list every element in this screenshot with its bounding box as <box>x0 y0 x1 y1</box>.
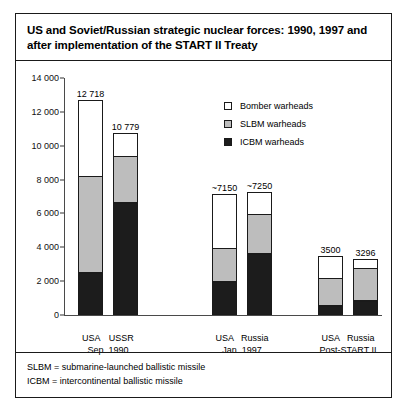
legend-item: SLBM warheads <box>224 119 313 129</box>
footnote-slbm: SLBM = submarine-launched ballistic miss… <box>27 361 380 375</box>
legend-label: SLBM warheads <box>240 119 306 129</box>
bar-segment-icbm <box>78 273 103 314</box>
x-axis-country-label: USSR <box>109 333 134 343</box>
y-axis-tick-mark <box>60 179 64 180</box>
legend-label: Bomber warheads <box>240 101 313 111</box>
bar-segment-slbm <box>247 214 272 255</box>
bar-stack: 12 718 <box>78 100 103 315</box>
bar-segment-slbm <box>318 278 343 307</box>
x-axis-country-label: Russia <box>347 333 375 343</box>
figure-frame: US and Soviet/Russian strategic nuclear … <box>15 13 392 398</box>
x-axis-country-label: USA <box>82 333 101 343</box>
y-axis-tick-mark <box>60 213 64 214</box>
bar-segment-icbm <box>113 203 138 314</box>
legend-item: Bomber warheads <box>224 101 313 111</box>
y-axis-tick-mark <box>60 145 64 146</box>
plot-area: 02 0004 0006 0008 00010 00012 00014 000 … <box>16 61 391 329</box>
footnote-icbm: ICBM = intercontinental ballistic missil… <box>27 375 380 389</box>
x-axis-country-label: USA <box>321 333 340 343</box>
bar-segment-icbm <box>353 301 378 315</box>
bar-segment-slbm <box>353 268 378 302</box>
bar-value-label: ~7250 <box>247 181 272 191</box>
bar-segment-icbm <box>318 306 343 314</box>
bar-value-label: 12 718 <box>77 89 105 99</box>
bar-value-label: 3296 <box>355 248 375 258</box>
axis-box: 02 0004 0006 0008 00010 00012 00014 000 … <box>64 78 382 316</box>
bar-stack: ~7150 <box>212 194 237 315</box>
x-axis-country-label: Russia <box>241 333 269 343</box>
y-axis-tick-mark <box>60 78 64 79</box>
bar-segment-icbm <box>247 254 272 315</box>
bar-segment-slbm <box>113 156 138 203</box>
bar-segment-slbm <box>78 176 103 273</box>
y-axis-tick-mark <box>60 280 64 281</box>
chart-legend: Bomber warheads SLBM warheads ICBM warhe… <box>224 101 313 155</box>
y-axis-tick-mark <box>60 314 64 315</box>
y-axis-tick-mark <box>60 247 64 248</box>
x-axis-line <box>64 315 382 317</box>
bar-stack: ~7250 <box>247 192 272 314</box>
bar-value-label: 3500 <box>320 245 340 255</box>
bar-segment-icbm <box>212 282 237 315</box>
footnotes: SLBM = submarine-launched ballistic miss… <box>16 352 391 397</box>
bar-segment-slbm <box>212 248 237 282</box>
legend-swatch-bomber-icon <box>224 102 232 110</box>
y-axis-line <box>64 78 65 316</box>
title-block: US and Soviet/Russian strategic nuclear … <box>16 14 391 61</box>
x-axis-country-label: USA <box>215 333 234 343</box>
bar-value-label: 10 779 <box>112 122 140 132</box>
y-axis-tick-mark <box>60 112 64 113</box>
bar-stack: 3296 <box>353 259 378 315</box>
legend-item: ICBM warheads <box>224 137 313 147</box>
legend-swatch-slbm-icon <box>224 120 232 128</box>
bar-value-label: ~7150 <box>212 183 237 193</box>
bar-stack: 3500 <box>318 256 343 315</box>
legend-swatch-icbm-icon <box>224 138 232 146</box>
page-title: US and Soviet/Russian strategic nuclear … <box>27 23 381 53</box>
legend-label: ICBM warheads <box>240 137 304 147</box>
bar-stack: 10 779 <box>113 133 138 315</box>
